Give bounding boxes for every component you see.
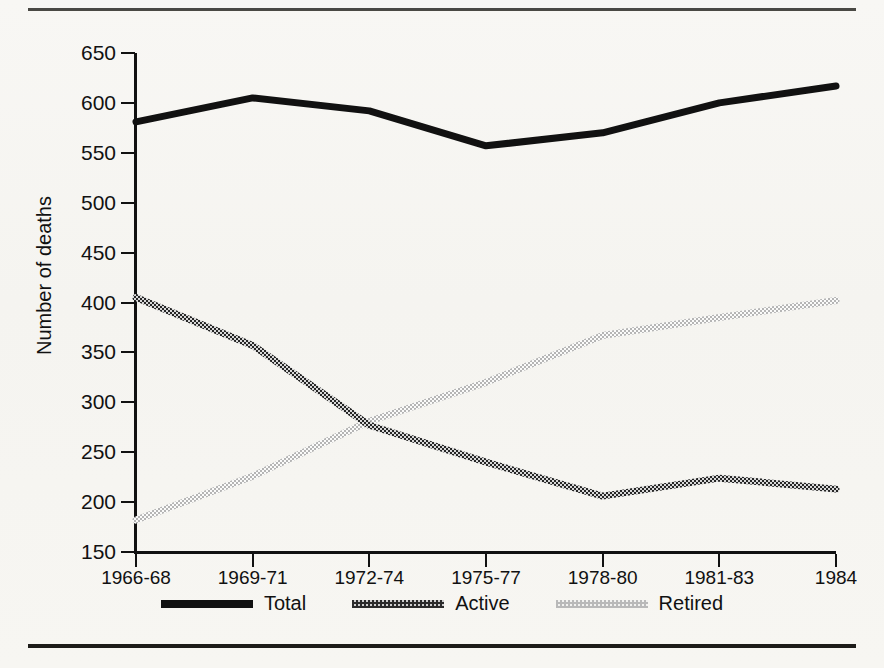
series-line-active [136, 298, 836, 497]
legend-label-active: Active [455, 592, 509, 615]
chart-legend: Total Active Retired [0, 592, 884, 615]
legend-label-retired: Retired [659, 592, 723, 615]
page-rule-top [28, 8, 856, 11]
scanned-page-background: Number of deaths 15020025030035040045050… [0, 0, 884, 668]
legend-swatch-active [352, 600, 444, 608]
legend-swatch-total [161, 600, 253, 608]
legend-label-total: Total [264, 592, 306, 615]
legend-item-active: Active [352, 592, 509, 615]
legend-item-retired: Retired [556, 592, 723, 615]
legend-swatch-retired [556, 600, 648, 608]
line-chart-figure: Number of deaths 15020025030035040045050… [0, 14, 884, 640]
page-rule-bottom [28, 644, 856, 648]
series-line-retired [136, 301, 836, 521]
legend-item-total: Total [161, 592, 306, 615]
series-line-total [136, 86, 836, 146]
chart-series-layer [0, 14, 884, 640]
